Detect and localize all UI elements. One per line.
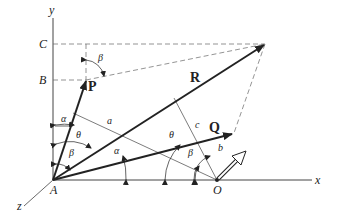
y-axis-label: y [48, 3, 55, 17]
point-O-label: O [213, 183, 222, 197]
segment-b-label: b [218, 142, 223, 153]
dashed-construction-lines [53, 44, 265, 133]
point-C-label: C [39, 37, 48, 51]
hollow-arrow-icon [218, 151, 246, 179]
angle-alpha-top: α [61, 113, 67, 124]
point-B-label: B [39, 73, 47, 87]
angle-alpha-mid: α [114, 145, 120, 156]
angle-theta-right: θ [169, 129, 174, 140]
segment-a-label: a [107, 115, 112, 126]
vector-Q-label: Q [209, 120, 220, 135]
angle-beta-right: β [187, 147, 193, 158]
vector-P-label: P [88, 79, 97, 94]
angle-theta-left: θ [76, 129, 81, 140]
vector-R-label: R [190, 70, 201, 85]
point-A-label: A [49, 183, 58, 197]
angle-arcs [55, 60, 210, 180]
vector-P [53, 81, 86, 180]
point-O [215, 178, 219, 182]
angle-beta-left: β [68, 147, 74, 158]
segment-c-label: c [195, 119, 200, 130]
z-axis [24, 180, 53, 206]
z-axis-label: z [16, 199, 22, 213]
x-axis-label: x [314, 173, 321, 187]
angle-beta-top: β [97, 52, 103, 63]
vector-diagram: y x z C B A O P R Q a b c β α θ β α θ β [0, 0, 339, 217]
